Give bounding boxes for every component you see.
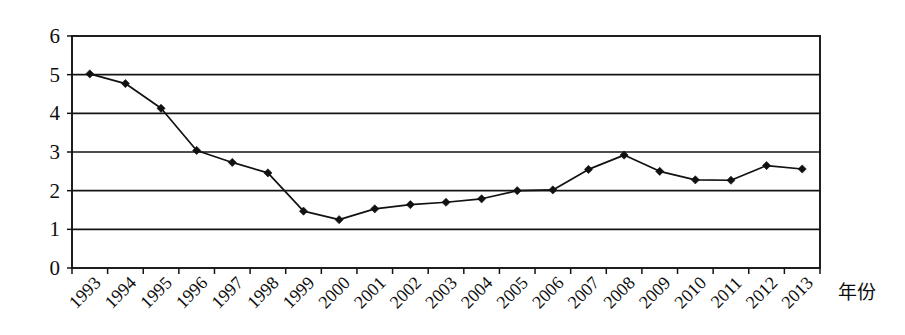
x-axis-tick-label: 2007 — [564, 273, 604, 313]
x-axis-tick-label: 2003 — [421, 273, 461, 313]
x-axis-tick-label: 2004 — [457, 273, 497, 313]
line-chart: 0123456 19931994199519961997199819992000… — [0, 0, 905, 335]
chart-container: 0123456 19931994199519961997199819992000… — [0, 0, 905, 335]
x-axis-tick-label: 2002 — [386, 273, 426, 313]
y-axis-tick-label: 6 — [50, 24, 61, 48]
x-axis-tick-label: 2009 — [635, 273, 675, 313]
y-axis-tick-label: 4 — [50, 101, 61, 125]
data-point-marker — [335, 216, 343, 224]
x-axis-tick-label: 1999 — [279, 273, 319, 313]
x-axis-tick-label: 2011 — [707, 273, 746, 312]
x-axis-tick-label: 2010 — [671, 273, 711, 313]
x-axis-tick-label: 1997 — [208, 273, 248, 313]
x-axis-tick-label: 2013 — [777, 273, 817, 313]
data-point-marker — [228, 158, 236, 166]
x-axis-tick-label: 1993 — [65, 273, 105, 313]
data-point-marker — [371, 205, 379, 213]
y-axis-tick-label: 5 — [50, 63, 61, 87]
data-point-marker — [442, 198, 450, 206]
x-axis-tick-label: 2008 — [599, 273, 639, 313]
data-point-marker — [691, 176, 699, 184]
data-point-marker — [762, 161, 770, 169]
x-axis-tick-label: 2012 — [742, 273, 782, 313]
y-axis-tick-label: 0 — [50, 256, 61, 280]
data-point-marker — [513, 187, 521, 195]
x-axis-tick-label: 2006 — [528, 273, 568, 313]
x-axis-tick-label: 2001 — [350, 273, 390, 313]
y-axis-tick-label: 2 — [50, 179, 61, 203]
x-axis-tick-label: 1995 — [136, 273, 176, 313]
data-point-marker — [86, 70, 94, 78]
x-axis-tick-label: 1998 — [243, 273, 283, 313]
data-point-marker — [549, 186, 557, 194]
x-axis-tick-label: 2000 — [314, 273, 354, 313]
data-point-marker — [656, 167, 664, 175]
y-axis-tick-label: 1 — [50, 217, 61, 241]
y-axis-ticks-group: 0123456 — [50, 24, 73, 280]
data-point-marker — [584, 165, 592, 173]
data-point-marker — [798, 165, 806, 173]
x-axis-labels-group: 1993199419951996199719981999200020012002… — [65, 273, 817, 313]
y-axis-tick-label: 3 — [50, 140, 61, 164]
x-axis-tick-label: 1996 — [172, 273, 212, 313]
x-axis-title: 年份 — [838, 282, 876, 303]
data-point-marker — [727, 176, 735, 184]
x-axis-tick-label: 1994 — [101, 273, 141, 313]
data-point-marker — [478, 195, 486, 203]
x-axis-tick-label: 2005 — [492, 273, 532, 313]
data-point-marker — [406, 200, 414, 208]
